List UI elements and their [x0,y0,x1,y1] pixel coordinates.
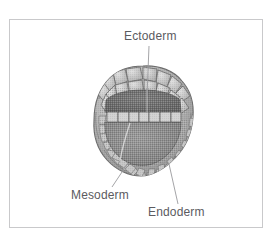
leader-line-endoderm [169,164,178,204]
figure-root: Ectoderm Mesoderm Endoderm [0,0,273,242]
label-endoderm: Endoderm [148,206,205,219]
label-ectoderm: Ectoderm [124,30,177,43]
embryo-body [94,66,198,180]
label-mesoderm: Mesoderm [71,189,129,202]
